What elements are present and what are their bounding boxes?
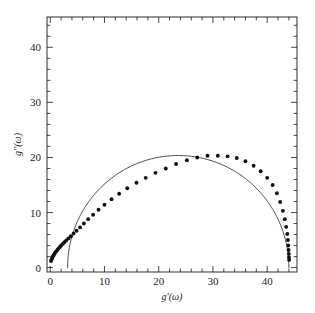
data-point bbox=[287, 258, 291, 262]
data-point bbox=[265, 176, 269, 180]
data-point bbox=[185, 158, 189, 162]
data-point bbox=[174, 162, 178, 166]
data-point bbox=[110, 197, 114, 201]
y-axis-title-text: g''(ω) bbox=[12, 132, 24, 156]
data-point bbox=[164, 167, 168, 171]
data-point bbox=[144, 176, 148, 180]
data-point bbox=[75, 229, 79, 233]
data-point bbox=[286, 238, 290, 242]
data-point bbox=[287, 252, 291, 256]
y-axis-title: g''(ω) bbox=[12, 132, 24, 156]
x-tick-label: 0 bbox=[48, 275, 54, 287]
data-point bbox=[72, 232, 76, 236]
plot-canvas: 010203040 010203040 g'(ω) g''(ω) bbox=[0, 0, 315, 313]
data-point bbox=[252, 164, 256, 168]
data-point bbox=[206, 154, 210, 158]
data-point bbox=[275, 191, 279, 195]
data-point bbox=[284, 225, 288, 229]
data-point bbox=[283, 217, 287, 221]
data-point bbox=[287, 248, 291, 252]
data-point bbox=[286, 244, 290, 248]
data-point bbox=[78, 225, 82, 229]
data-point bbox=[278, 200, 282, 204]
x-tick-label: 10 bbox=[99, 275, 111, 287]
cole-cole-plot-figure: 010203040 010203040 g'(ω) g''(ω) bbox=[0, 0, 315, 313]
data-point bbox=[271, 183, 275, 187]
data-point bbox=[103, 203, 107, 207]
x-tick-label: 40 bbox=[262, 275, 274, 287]
x-axis-title: g'(ω) bbox=[162, 291, 184, 303]
data-point bbox=[235, 156, 239, 160]
data-point bbox=[82, 222, 86, 226]
x-tick-label: 30 bbox=[207, 275, 219, 287]
data-point bbox=[244, 159, 248, 163]
data-point bbox=[259, 169, 263, 173]
data-point bbox=[135, 181, 139, 185]
y-tick-label: 20 bbox=[30, 151, 42, 163]
y-tick-label: 40 bbox=[30, 41, 42, 53]
data-point bbox=[154, 171, 158, 175]
data-point bbox=[285, 232, 289, 236]
data-point bbox=[117, 192, 121, 196]
data-point bbox=[226, 154, 230, 158]
data-point bbox=[216, 154, 220, 158]
x-axis-title-text: g'(ω) bbox=[162, 291, 184, 303]
data-point bbox=[195, 156, 199, 160]
y-tick-label: 10 bbox=[30, 207, 42, 219]
y-tick-label: 30 bbox=[30, 96, 42, 108]
data-point bbox=[69, 234, 73, 238]
x-tick-label: 20 bbox=[153, 275, 165, 287]
data-point bbox=[97, 208, 101, 212]
data-point bbox=[86, 217, 90, 221]
data-point bbox=[91, 213, 95, 217]
y-tick-label: 0 bbox=[36, 262, 42, 274]
data-point bbox=[281, 209, 285, 213]
data-point bbox=[125, 186, 129, 190]
